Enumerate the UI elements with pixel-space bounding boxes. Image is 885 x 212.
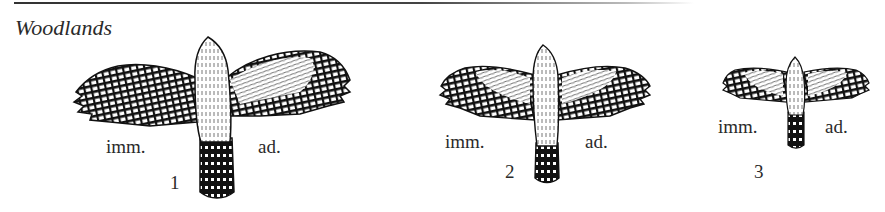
figure-1-adult-label: ad.: [258, 136, 281, 158]
body: [533, 45, 559, 146]
figure-3-number: 3: [754, 161, 764, 183]
tail: [200, 138, 234, 198]
left-wing-immature: [74, 65, 197, 127]
figure-2-adult-label: ad.: [585, 131, 608, 153]
tail: [535, 143, 559, 183]
figure-2-immature-label: imm.: [445, 131, 485, 153]
figure-1-immature-label: imm.: [106, 136, 146, 158]
body: [786, 57, 805, 115]
hawk-illustrations: [0, 0, 885, 212]
hawk-figure-2: [440, 45, 650, 183]
body: [195, 37, 231, 142]
tail: [788, 112, 804, 148]
hawk-figure-1: [74, 37, 350, 198]
figure-3-adult-label: ad.: [825, 116, 848, 138]
figure-1-number: 1: [170, 172, 180, 194]
figure-2-number: 2: [505, 161, 515, 183]
figure-3-immature-label: imm.: [718, 116, 758, 138]
